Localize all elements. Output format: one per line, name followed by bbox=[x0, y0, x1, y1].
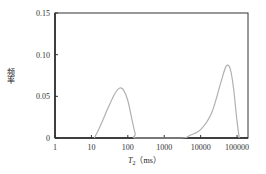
x-tick-label: 100000 bbox=[225, 143, 249, 152]
x-tick-label: 10000 bbox=[191, 143, 211, 152]
y-tick-label: 0.10 bbox=[36, 51, 50, 60]
t2-curve bbox=[94, 65, 239, 138]
x-axis-label: T2（ms） bbox=[128, 156, 161, 166]
plot-frame bbox=[55, 13, 248, 138]
x-tick-label: 10 bbox=[87, 143, 95, 152]
y-axis-label: 频率 bbox=[6, 67, 15, 85]
x-tick-label: 1 bbox=[53, 143, 57, 152]
y-tick-label: 0 bbox=[46, 134, 50, 143]
x-tick-label: 100 bbox=[122, 143, 134, 152]
y-tick-label: 0.05 bbox=[36, 92, 50, 101]
y-tick-label: 0.15 bbox=[36, 9, 50, 18]
x-tick-label: 1000 bbox=[156, 143, 172, 152]
t2-distribution-chart: 00.050.100.15 110100100010000100000 频率 T… bbox=[0, 0, 266, 174]
